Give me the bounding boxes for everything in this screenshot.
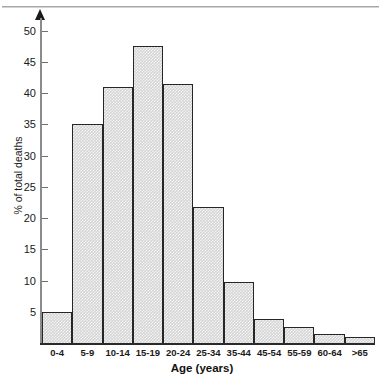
x-axis-tick-label: 20-24 bbox=[163, 347, 193, 358]
x-axis-tick-label: 55-59 bbox=[284, 347, 314, 358]
x-axis-tick-label: 5-9 bbox=[72, 347, 102, 358]
bar--65 bbox=[345, 337, 375, 343]
x-axis-tick-label: 0-4 bbox=[42, 347, 72, 358]
x-axis-tick-label: 60-64 bbox=[314, 347, 344, 358]
bar-20-24 bbox=[163, 84, 193, 343]
x-axis-tick-label: 45-54 bbox=[254, 347, 284, 358]
bar-15-19 bbox=[133, 46, 163, 343]
y-axis-tick-label: 35 bbox=[14, 119, 36, 130]
x-axis-tick-label: 15-19 bbox=[133, 347, 163, 358]
bar-10-14 bbox=[103, 87, 133, 343]
x-axis-tick-label: 25-34 bbox=[193, 347, 223, 358]
x-axis-tick-label: 35-44 bbox=[224, 347, 254, 358]
x-axis-tick-label: >65 bbox=[345, 347, 375, 358]
y-axis-tick-label: 25 bbox=[14, 182, 36, 193]
plot-area bbox=[42, 18, 375, 343]
x-axis-tick-label: 10-14 bbox=[103, 347, 133, 358]
y-axis-tick-label: 50 bbox=[14, 26, 36, 37]
y-axis-tick-label: 20 bbox=[14, 213, 36, 224]
y-axis-tick-label: 10 bbox=[14, 276, 36, 287]
bar-25-34 bbox=[193, 207, 223, 343]
bar-0-4 bbox=[42, 312, 72, 343]
bar-35-44 bbox=[224, 282, 254, 343]
y-axis-tick-label: 5 bbox=[14, 307, 36, 318]
x-axis-line bbox=[40, 343, 375, 345]
bar-5-9 bbox=[72, 124, 102, 343]
x-axis-title: Age (years) bbox=[42, 362, 362, 374]
y-axis-tick-label: 15 bbox=[14, 244, 36, 255]
y-axis-tick-label: 30 bbox=[14, 151, 36, 162]
y-axis-tick-label: 40 bbox=[14, 88, 36, 99]
x-axis-tick-labels: 0-45-910-1415-1920-2425-3435-4445-5455-5… bbox=[42, 347, 375, 361]
bar-60-64 bbox=[314, 334, 344, 343]
bar-55-59 bbox=[284, 327, 314, 343]
bar-45-54 bbox=[254, 319, 284, 343]
y-axis-tick-label: 45 bbox=[14, 57, 36, 68]
histogram-figure: % of total deaths 5101520253035404550 0-… bbox=[0, 0, 381, 379]
